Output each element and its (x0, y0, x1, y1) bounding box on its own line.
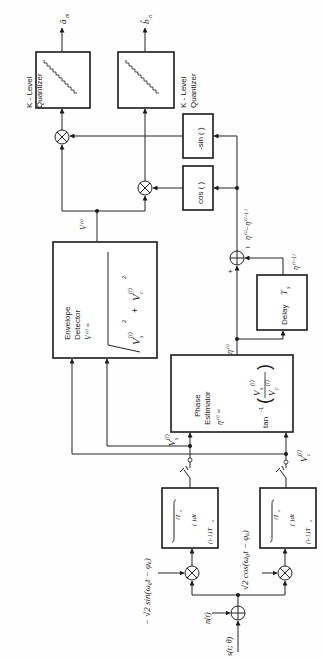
svg-text:Estimator: Estimator (203, 391, 212, 425)
svg-text:-sin ( ): -sin ( ) (196, 127, 205, 150)
svg-text:+: + (228, 267, 233, 276)
svg-text:c: c (305, 453, 311, 456)
svg-text:(i): (i) (296, 450, 303, 456)
quantizer-a-label-1: K - Level (25, 76, 34, 108)
svg-text:( )dt: ( )dt (190, 513, 198, 526)
svg-text:c: c (138, 291, 144, 294)
neg-sin-block: -sin ( ) (70, 114, 213, 158)
envelope-detector: Envelope Detector V⁽ⁱ⁾ = V s (i) 2 + V c… (53, 242, 157, 358)
sampler-switch (284, 460, 288, 464)
svg-text:(i): (i) (164, 434, 171, 440)
svg-text:s: s (178, 510, 183, 512)
svg-text:Delay: Delay (280, 305, 289, 325)
cos-block: cos ( ) (153, 166, 213, 210)
v-i-label: V⁽ⁱ⁾ (79, 219, 88, 230)
block-diagram: K - Level Quantizer â m K - Level Quanti… (0, 0, 324, 660)
junction-dot (235, 186, 239, 190)
svg-text:s: s (308, 520, 313, 522)
svg-text:( )dt: ( )dt (288, 513, 296, 526)
multiplier-a (55, 109, 69, 144)
svg-text:(i-1)T: (i-1)T (304, 527, 312, 544)
noise-label: n(t) (203, 612, 212, 624)
svg-text:(i): (i) (127, 288, 134, 294)
multiplier-cos (262, 549, 292, 580)
svg-text:−: − (245, 242, 250, 252)
svg-text:s: s (210, 520, 215, 522)
output-b-hat: b̂ (140, 19, 151, 24)
svg-text:): ) (254, 364, 274, 370)
svg-text:(i-1)T: (i-1)T (206, 527, 214, 544)
phase-summer: + − (228, 242, 250, 276)
svg-text:+: + (130, 308, 140, 313)
eta-i-label: η⁽ⁱ⁾ (225, 344, 234, 354)
eta-prev-label: η⁽ⁱ⁻¹⁾ (291, 254, 300, 270)
signal-input-label: s(t; θ) (225, 636, 234, 656)
svg-text:s: s (173, 437, 179, 440)
phase-estimator: Phase Estimator η⁽ⁱ⁾ = tan -1 ( V s (i) … (171, 355, 293, 432)
svg-text:(i): (i) (264, 380, 271, 386)
output-a-hat: â (58, 19, 68, 24)
svg-text:(i): (i) (127, 332, 134, 338)
svg-text:(i): (i) (249, 380, 256, 386)
svg-text:n: n (147, 15, 153, 18)
switch-icon (276, 466, 286, 488)
quantizer-b-label-2: Quantizer (189, 73, 198, 108)
svg-text:-1: -1 (258, 406, 264, 412)
svg-text:Phase: Phase (193, 394, 202, 417)
quantizer-b-label-1: K - Level (179, 76, 188, 108)
ref-sin-label: − √2 sin(ω₀t − φₐ) (142, 558, 152, 625)
svg-text:(: ( (254, 398, 274, 404)
svg-text:V⁽ⁱ⁾ =: V⁽ⁱ⁾ = (84, 323, 93, 340)
delay-block: Delay T s η⁽ⁱ⁻¹⁾ (237, 254, 307, 339)
switch-icon (180, 466, 190, 488)
svg-text:m: m (64, 13, 70, 18)
svg-text:s: s (276, 510, 281, 512)
multiplier-sin (158, 549, 199, 580)
svg-text:tan: tan (261, 417, 270, 428)
integrator-s: iT s ( )dt (i-1)T s (162, 488, 218, 548)
svg-text:cos ( ): cos ( ) (196, 181, 205, 204)
quantizer-a-label-2: Quantizer (35, 73, 44, 108)
quantizer-a: K - Level Quantizer â m (25, 13, 90, 108)
ref-cos-label: √2 cos(ω₀t − φₐ) (240, 530, 250, 590)
multiplier-b (138, 109, 152, 195)
svg-text:c: c (273, 387, 279, 390)
junction-dot (95, 209, 99, 213)
quantizer-b: K - Level Quantizer b̂ n (118, 15, 198, 108)
integrator-c: iT s ( )dt (i-1)T s (260, 488, 316, 548)
eta-diff-label: η⁽ⁱ⁾−η⁽ⁱ⁻¹⁾ (243, 209, 252, 240)
svg-text:Detector: Detector (73, 309, 82, 340)
svg-text:η⁽ⁱ⁾ =: η⁽ⁱ⁾ = (215, 409, 224, 425)
sampler-switch (188, 458, 192, 462)
svg-text:Envelope: Envelope (63, 306, 72, 340)
